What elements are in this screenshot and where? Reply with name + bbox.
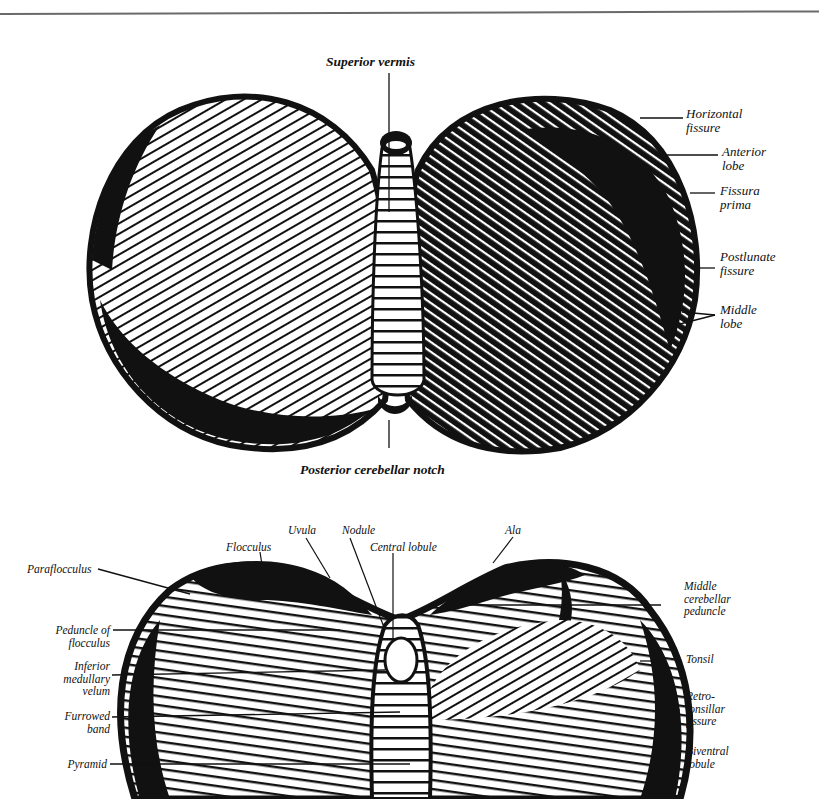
- label-retro-tonsillar-fissure: Retro- tonsillar fissure: [686, 690, 725, 728]
- label-inferior-medullary-velum: Inferior medullary velum: [20, 660, 110, 698]
- label-nodule: Nodule: [342, 524, 375, 537]
- figure-page: Superior vermis Horizontal fissure Anter…: [0, 0, 819, 799]
- label-horizontal-fissure: Horizontal fissure: [686, 107, 742, 135]
- label-pyramid: Pyramid: [20, 758, 107, 771]
- superior-view-drawing: [89, 73, 718, 451]
- label-middle-cerebellar-peduncle: Middle cerebellar peduncle: [684, 580, 731, 618]
- label-superior-vermis: Superior vermis: [326, 55, 415, 69]
- label-furrowed-band: Furrowed band: [20, 710, 110, 735]
- label-anterior-lobe: Anterior lobe: [722, 145, 766, 173]
- label-biventral-lobule: Biventral lobule: [686, 745, 729, 770]
- label-postlunate-fissure: Postlunate fissure: [720, 250, 776, 278]
- label-tonsil: Tonsil: [686, 653, 714, 666]
- inferior-view-drawing: [98, 537, 690, 799]
- label-ala: Ala: [505, 524, 521, 537]
- label-uvula: Uvula: [288, 524, 316, 537]
- label-central-lobule: Central lobule: [370, 541, 437, 554]
- label-middle-lobe: Middle lobe: [720, 303, 757, 331]
- label-paraflocculus: Paraflocculus: [27, 563, 92, 576]
- label-flocculus: Flocculus: [226, 541, 271, 554]
- label-peduncle-of-flocculus: Peduncle of flocculus: [20, 624, 110, 649]
- label-fissura-prima: Fissura prima: [720, 184, 760, 212]
- label-posterior-cerebellar-notch: Posterior cerebellar notch: [300, 463, 445, 477]
